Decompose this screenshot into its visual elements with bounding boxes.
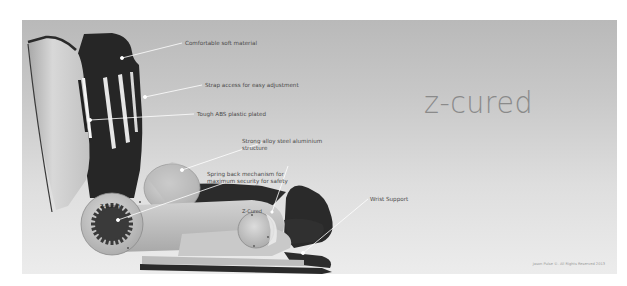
annotation-spring-line2: maximum security for safety (207, 178, 288, 185)
product-poster: Z-Cured Z-Cured Comfortable soft materia… (22, 20, 617, 274)
abs-shell (28, 37, 90, 210)
annotation-alloy-line2: structure (242, 145, 322, 152)
annotation-wrist-support: Wrist Support (370, 196, 408, 203)
annotation-alloy-structure: Strong alloy steel aluminium structure (242, 138, 322, 151)
annotation-abs-plastic: Tough ABS plastic plated (197, 111, 266, 118)
annotation-strap-access: Strap access for easy adjustment (205, 82, 299, 89)
knob-brand-text: Z-Cured (242, 208, 262, 215)
copyright-text: Jason Pulse ©. All Rights Reserved 2013 (533, 262, 605, 266)
annotation-spring-line1: Spring back mechanism for (207, 171, 288, 178)
annotation-alloy-line1: Strong alloy steel aluminium (242, 138, 322, 145)
annotation-spring-back: Spring back mechanism for maximum securi… (207, 171, 288, 184)
brand-title: z-cured (424, 84, 533, 120)
annotation-soft-material: Comfortable soft material (185, 40, 257, 47)
hinge-brand-text: Z-Cured (100, 203, 120, 210)
